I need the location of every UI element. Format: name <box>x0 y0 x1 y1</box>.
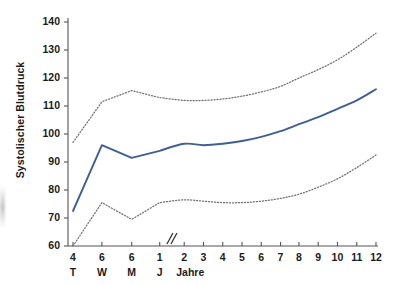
x-tick-label: 12 <box>363 251 389 263</box>
y-tick-label: 120 <box>34 71 60 83</box>
axis-break-mark <box>167 233 177 244</box>
y-tick-label: 110 <box>34 99 60 111</box>
x-axis-unit-label: Jahre <box>176 266 204 278</box>
x-tick-label: 6 <box>89 251 115 263</box>
data-series <box>73 33 376 246</box>
x-tick-sublabel: T <box>60 266 86 278</box>
series-line-0 <box>73 33 376 142</box>
x-tick-sublabel: W <box>89 266 115 278</box>
y-tick-label: 130 <box>34 43 60 55</box>
y-tick-label: 60 <box>34 239 60 251</box>
x-tick-sublabel: J <box>147 266 173 278</box>
axes <box>64 18 378 246</box>
x-tick-sublabel: M <box>119 266 145 278</box>
x-tick-label: 6 <box>119 251 145 263</box>
x-tick-label: 1 <box>147 251 173 263</box>
y-tick-label: 100 <box>34 127 60 139</box>
y-tick-label: 140 <box>34 15 60 27</box>
y-tick-label: 70 <box>34 211 60 223</box>
series-line-1 <box>73 89 376 211</box>
y-tick-label: 80 <box>34 183 60 195</box>
y-tick-label: 90 <box>34 155 60 167</box>
series-line-2 <box>73 155 376 246</box>
x-tick-label: 4 <box>60 251 86 263</box>
